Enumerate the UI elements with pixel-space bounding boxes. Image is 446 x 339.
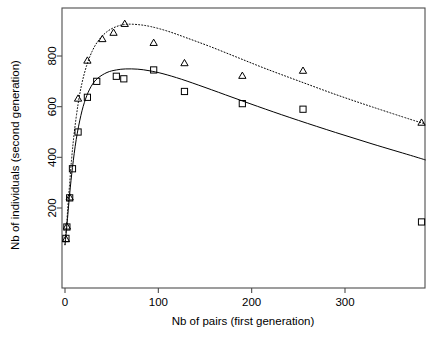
scatter-plot: 0100200300 200400600800 Nb of pairs (fir… [0, 0, 446, 339]
y-tick-label: 800 [46, 46, 58, 65]
x-axis-title: Nb of pairs (first generation) [172, 315, 315, 327]
y-tick-label: 400 [46, 148, 58, 167]
y-tick-label: 200 [46, 198, 58, 217]
y-axis-title: Nb of individuals (second generation) [9, 60, 21, 250]
x-tick-label: 100 [149, 296, 168, 308]
x-tick-label: 0 [62, 296, 68, 308]
figure-canvas: 0100200300 200400600800 Nb of pairs (fir… [0, 0, 446, 339]
y-tick-label: 600 [46, 97, 58, 116]
x-tick-label: 300 [335, 296, 354, 308]
x-tick-label: 200 [242, 296, 261, 308]
